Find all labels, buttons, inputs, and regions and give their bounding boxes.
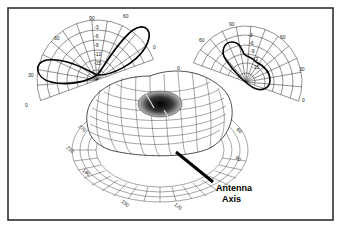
left-radial-label: -3 <box>94 24 99 30</box>
right-radial-label: -12 <box>251 56 258 62</box>
left-angle-label: 90 <box>89 15 95 21</box>
antenna-pattern-figure: 0 30 60 90 60 0 -3 -6 -9 -12 -15 <box>0 0 339 227</box>
right-radial-label: -6 <box>249 40 254 46</box>
right-angle-label: 0 <box>177 65 180 71</box>
right-angle-label: 90 <box>229 21 235 27</box>
left-angle-label: 30 <box>28 72 34 78</box>
right-angle-label: 0 <box>302 97 305 103</box>
left-angle-label: 60 <box>123 13 129 19</box>
left-angle-label: 0 <box>153 44 156 50</box>
right-angle-label: 60 <box>199 37 205 43</box>
surface-center-hole <box>138 91 182 117</box>
right-radial-label: -9 <box>250 48 255 54</box>
right-radial-label: -15 <box>252 64 259 70</box>
left-radial-label: -9 <box>94 42 99 48</box>
left-radial-label: -12 <box>94 51 101 57</box>
right-angle-label: 30 <box>299 66 305 72</box>
left-radial-label: -15 <box>94 60 101 66</box>
left-angle-label: 60 <box>54 35 60 41</box>
antenna-axis-label-line2: Axis <box>222 194 241 204</box>
right-angle-label: 60 <box>280 34 286 40</box>
right-radial-label: -3 <box>248 32 253 38</box>
left-radial-label: -6 <box>94 33 99 39</box>
antenna-axis-label-line1: Antenna <box>216 183 253 193</box>
left-angle-label: 0 <box>25 102 28 108</box>
